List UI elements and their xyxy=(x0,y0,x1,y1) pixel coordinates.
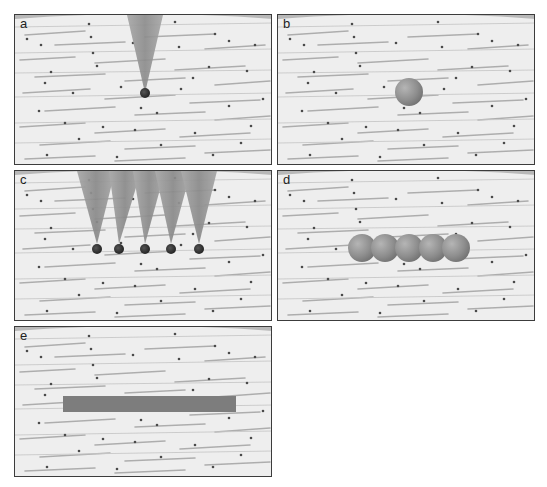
panel-label-b: b xyxy=(283,16,290,31)
droplet-icon xyxy=(114,244,124,254)
sphere-depot-icon xyxy=(371,234,399,262)
needle-icon xyxy=(77,171,115,244)
rod-depot-icon xyxy=(63,396,236,412)
sphere-depot-icon xyxy=(395,78,423,106)
needle-icon xyxy=(127,15,163,93)
panel-a: a xyxy=(14,14,272,165)
panel-label-d: d xyxy=(283,172,290,187)
panel-c: c xyxy=(14,170,272,321)
sphere-depot-icon xyxy=(442,234,470,262)
droplet-icon xyxy=(140,244,150,254)
needle-icon xyxy=(181,171,217,244)
droplet-icon xyxy=(194,244,204,254)
panel-label-e: e xyxy=(20,328,27,343)
sphere-depot-icon xyxy=(395,234,423,262)
droplet-icon xyxy=(166,244,176,254)
droplet-icon xyxy=(92,244,102,254)
panel-b: b xyxy=(277,14,535,165)
needle-array xyxy=(77,171,217,244)
panel-d: d xyxy=(277,170,535,321)
panel-label-c: c xyxy=(20,172,27,187)
panel-label-a: a xyxy=(20,16,27,31)
droplet-icon xyxy=(140,88,150,98)
panel-e: e xyxy=(14,326,272,477)
